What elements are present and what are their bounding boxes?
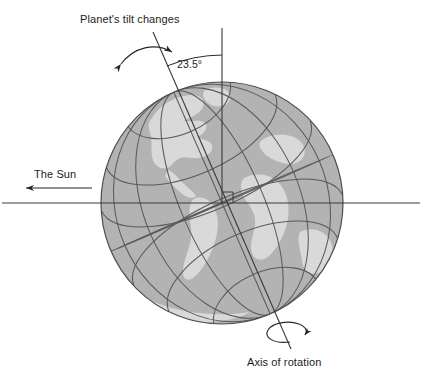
- rotation-arrow-group: Axis of rotation: [247, 322, 321, 368]
- axis-of-rotation-label: Axis of rotation: [247, 356, 321, 368]
- sun-label: The Sun: [34, 168, 76, 180]
- tilt-angle-group: 23.5°: [167, 55, 222, 70]
- earth-tilt-diagram: The Sun 23.5° Planet's tilt changes Axis…: [0, 0, 435, 377]
- tilt-angle-label: 23.5°: [177, 58, 202, 70]
- tilt-changes-label: Planet's tilt changes: [80, 13, 180, 25]
- tilt-changes-double-arrow: [121, 47, 172, 64]
- tilt-changes-group: Planet's tilt changes: [80, 13, 180, 64]
- diagram-canvas: The Sun 23.5° Planet's tilt changes Axis…: [0, 0, 435, 377]
